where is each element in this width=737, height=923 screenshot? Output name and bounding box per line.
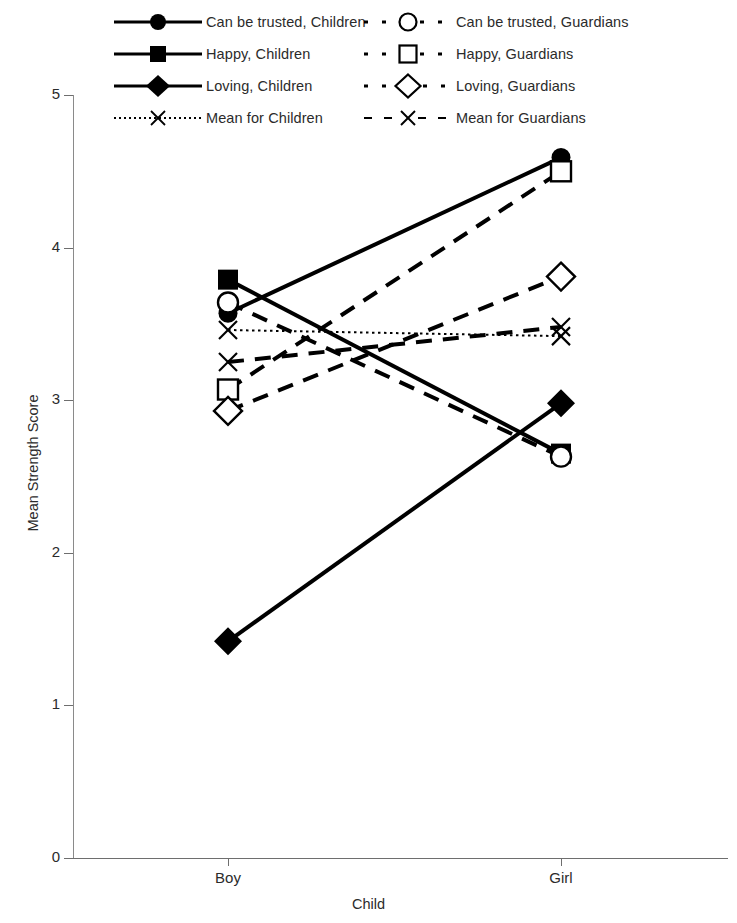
series-line: [228, 280, 561, 454]
chart-plot-area: [0, 0, 737, 923]
open-diamond-marker: [214, 397, 242, 425]
open-diamond-marker: [547, 263, 575, 291]
filled-diamond-marker: [214, 627, 242, 655]
series-line: [228, 158, 561, 314]
filled-diamond-marker: [547, 389, 575, 417]
chart-root: Can be trusted, Children Can be trusted,…: [0, 0, 737, 923]
open-square-marker: [551, 161, 571, 181]
series-line: [228, 171, 561, 389]
filled-square-marker: [218, 270, 238, 290]
open-circle-marker: [218, 293, 238, 313]
series-line: [228, 303, 561, 457]
cross-x-marker: [552, 327, 570, 345]
series-line: [228, 403, 561, 641]
open-circle-marker: [551, 447, 571, 467]
